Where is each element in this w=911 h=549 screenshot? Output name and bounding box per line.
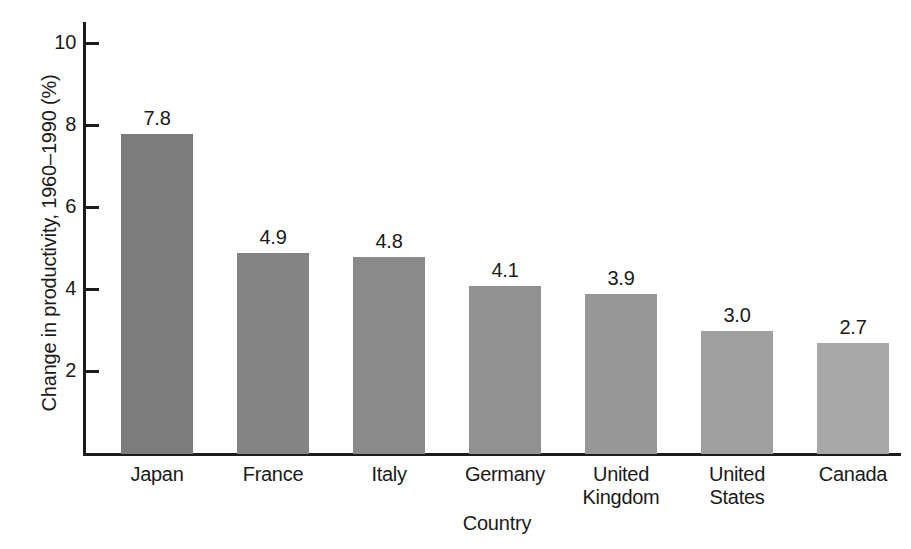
bar [353, 257, 425, 454]
bar-chart: Change in productivity, 1960–1990 (%) 24… [0, 0, 911, 549]
category-label-line: United [563, 463, 679, 486]
bar [585, 294, 657, 454]
bar-value-label: 3.0 [687, 304, 787, 326]
bar [237, 253, 309, 454]
category-label: France [215, 463, 331, 486]
bar-value-label: 3.9 [571, 267, 671, 289]
category-label-line: Germany [447, 463, 563, 486]
x-axis-title: Country [83, 512, 911, 535]
category-label: Germany [447, 463, 563, 486]
bar [469, 286, 541, 454]
category-label: Canada [795, 463, 911, 486]
category-label-line: France [215, 463, 331, 486]
category-label: Italy [331, 463, 447, 486]
category-label-line: Canada [795, 463, 911, 486]
bar [121, 134, 193, 454]
bar-value-label: 4.9 [223, 226, 323, 248]
bar-value-label: 4.8 [339, 230, 439, 252]
bar [817, 343, 889, 454]
category-label: Japan [99, 463, 215, 486]
bar-value-label: 2.7 [803, 316, 903, 338]
bars-layer [0, 0, 911, 454]
bar [701, 331, 773, 454]
category-label-line: Japan [99, 463, 215, 486]
category-label: UnitedStates [679, 463, 795, 509]
category-label-line: Italy [331, 463, 447, 486]
bar-value-label: 4.1 [455, 259, 555, 281]
category-label-line: States [679, 486, 795, 509]
category-label-line: Kingdom [563, 486, 679, 509]
category-label: UnitedKingdom [563, 463, 679, 509]
category-label-line: United [679, 463, 795, 486]
bar-value-label: 7.8 [107, 107, 207, 129]
